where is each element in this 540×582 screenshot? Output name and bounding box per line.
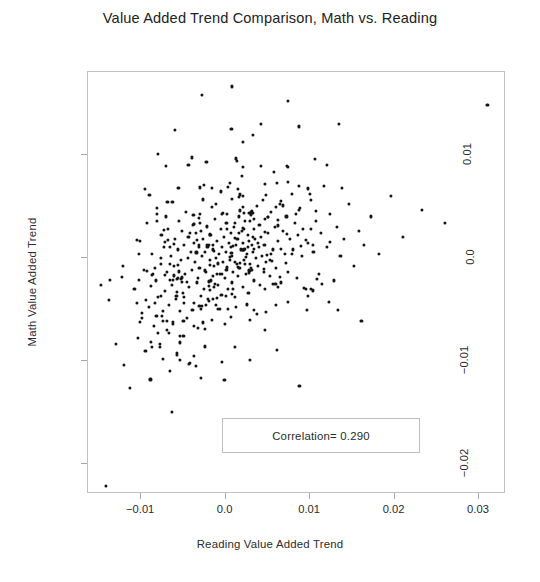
scatter-point bbox=[311, 289, 314, 292]
scatter-point bbox=[190, 156, 193, 159]
scatter-point bbox=[232, 288, 235, 291]
scatter-point bbox=[276, 218, 279, 221]
scatter-point bbox=[202, 287, 205, 290]
scatter-point bbox=[337, 308, 340, 311]
scatter-point bbox=[238, 231, 241, 234]
scatter-point bbox=[173, 243, 176, 246]
scatter-point bbox=[314, 157, 317, 160]
scatter-point bbox=[158, 345, 161, 348]
scatter-point bbox=[227, 242, 230, 245]
correlation-label: Correlation= 0.290 bbox=[272, 430, 370, 442]
scatter-point bbox=[220, 360, 223, 363]
x-tick-mark bbox=[394, 493, 395, 499]
scatter-point bbox=[288, 238, 291, 241]
scatter-point bbox=[150, 345, 153, 348]
scatter-point bbox=[140, 316, 143, 319]
scatter-point bbox=[285, 262, 288, 265]
scatter-point bbox=[251, 250, 254, 253]
scatter-point bbox=[208, 284, 211, 287]
scatter-point bbox=[249, 262, 252, 265]
scatter-point bbox=[192, 302, 195, 305]
scatter-point bbox=[369, 215, 372, 218]
scatter-point bbox=[223, 277, 226, 280]
scatter-point bbox=[253, 247, 256, 250]
scatter-point bbox=[336, 225, 339, 228]
scatter-point bbox=[220, 272, 223, 275]
scatter-point bbox=[178, 310, 181, 313]
scatter-point bbox=[274, 206, 277, 209]
scatter-point bbox=[200, 295, 203, 298]
scatter-point bbox=[166, 200, 169, 203]
scatter-point bbox=[183, 244, 186, 247]
scatter-point bbox=[257, 246, 260, 249]
scatter-point bbox=[140, 311, 143, 314]
scatter-point bbox=[121, 264, 124, 267]
scatter-point bbox=[144, 299, 147, 302]
scatter-point bbox=[263, 244, 266, 247]
scatter-point bbox=[232, 245, 235, 248]
scatter-point bbox=[264, 193, 267, 196]
scatter-point bbox=[255, 312, 258, 315]
scatter-point bbox=[220, 190, 223, 193]
scatter-point bbox=[99, 283, 102, 286]
scatter-point bbox=[298, 385, 301, 388]
scatter-point bbox=[109, 278, 112, 281]
scatter-point bbox=[156, 212, 159, 215]
scatter-point bbox=[133, 287, 136, 290]
scatter-point bbox=[329, 213, 332, 216]
scatter-point bbox=[267, 215, 270, 218]
scatter-point bbox=[321, 282, 324, 285]
scatter-point bbox=[297, 184, 300, 187]
scatter-point bbox=[147, 306, 150, 309]
scatter-point bbox=[156, 331, 159, 334]
scatter-point bbox=[314, 219, 317, 222]
scatter-point bbox=[241, 141, 244, 144]
scatter-point bbox=[170, 283, 173, 286]
scatter-point bbox=[137, 253, 140, 256]
scatter-point bbox=[220, 293, 223, 296]
scatter-point bbox=[270, 252, 273, 255]
scatter-point bbox=[261, 198, 264, 201]
scatter-point bbox=[192, 325, 195, 328]
scatter-point bbox=[188, 363, 191, 366]
scatter-point bbox=[215, 296, 218, 299]
scatter-point bbox=[358, 229, 361, 232]
scatter-point bbox=[178, 219, 181, 222]
scatter-point bbox=[168, 370, 171, 373]
scatter-point bbox=[231, 85, 234, 88]
scatter-point bbox=[223, 379, 226, 382]
scatter-point bbox=[155, 219, 158, 222]
scatter-point bbox=[287, 180, 290, 183]
scatter-point bbox=[221, 212, 224, 215]
scatter-point bbox=[309, 198, 312, 201]
scatter-point bbox=[259, 165, 262, 168]
scatter-point bbox=[115, 343, 118, 346]
scatter-point bbox=[123, 363, 126, 366]
y-tick-label: −0.02 bbox=[458, 449, 470, 477]
scatter-point bbox=[150, 340, 153, 343]
scatter-point bbox=[199, 221, 202, 224]
scatter-point bbox=[238, 209, 241, 212]
scatter-point bbox=[290, 192, 293, 195]
scatter-point bbox=[260, 254, 263, 257]
scatter-point bbox=[222, 260, 225, 263]
scatter-point bbox=[262, 267, 265, 270]
scatter-point bbox=[139, 240, 142, 243]
scatter-point bbox=[243, 262, 246, 265]
scatter-point bbox=[300, 254, 303, 257]
scatter-point bbox=[325, 246, 328, 249]
scatter-point bbox=[222, 236, 225, 239]
scatter-point bbox=[276, 224, 279, 227]
scatter-point bbox=[194, 260, 197, 263]
scatter-point bbox=[182, 335, 185, 338]
scatter-point bbox=[217, 262, 220, 265]
scatter-point bbox=[280, 281, 283, 284]
scatter-point bbox=[178, 358, 181, 361]
scatter-point bbox=[339, 254, 342, 257]
scatter-point bbox=[211, 318, 214, 321]
scatter-point bbox=[227, 287, 230, 290]
scatter-point bbox=[239, 262, 242, 265]
scatter-point bbox=[243, 258, 246, 261]
scatter-point bbox=[173, 264, 176, 267]
scatter-point bbox=[197, 246, 200, 249]
